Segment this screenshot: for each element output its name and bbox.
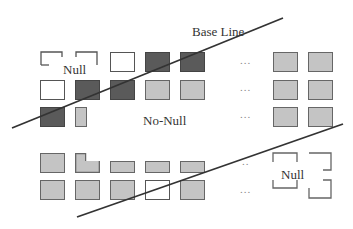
ellipsis-r2: ... <box>240 81 251 93</box>
cell-r2-c3 <box>110 80 135 100</box>
no-null-label: No-Null <box>143 113 186 129</box>
cell-r2-c2 <box>75 80 100 100</box>
cell-r1-c3 <box>110 52 135 72</box>
cell-r3-c8 <box>308 107 333 127</box>
cell-r3-c7 <box>273 107 298 127</box>
cell-r4-c1 <box>40 153 65 173</box>
cell-r2-c1 <box>40 80 65 100</box>
ellipsis-r1: ... <box>240 54 251 66</box>
cell-r4-c3-half <box>110 161 135 173</box>
cell-r1-c5 <box>180 52 205 72</box>
cell-r5-c1 <box>40 180 65 200</box>
cell-r2-c4 <box>145 80 170 100</box>
cell-r1-c4 <box>145 52 170 72</box>
diagram: ... ... ... .. ... Base Line Null No-Nul… <box>0 0 353 229</box>
cell-r5-c2 <box>75 180 100 200</box>
cell-r5-c4 <box>145 180 170 200</box>
base-line-label: Base Line <box>192 24 244 40</box>
ellipsis-r4: .. <box>242 155 250 167</box>
cell-r4-c4-half <box>145 161 170 173</box>
cell-r1-c7 <box>273 52 298 72</box>
ellipsis-r3: ... <box>240 108 251 120</box>
cell-r2-c5 <box>180 80 205 100</box>
cell-r3-c1 <box>40 107 65 127</box>
cell-r1-c8 <box>308 52 333 72</box>
cell-r2-c7 <box>273 80 298 100</box>
cell-r3-c2-partial <box>75 107 87 127</box>
cell-r5-c3 <box>110 180 135 200</box>
null-label-bottom: Null <box>281 167 304 183</box>
null-label-top: Null <box>63 62 86 78</box>
cell-r4-c5-half <box>180 161 205 173</box>
cell-r4-c2-notch-fill <box>76 154 98 171</box>
ellipsis-r5: ... <box>240 183 251 195</box>
cell-r5-c5 <box>180 180 205 200</box>
cell-r2-c8 <box>308 80 333 100</box>
